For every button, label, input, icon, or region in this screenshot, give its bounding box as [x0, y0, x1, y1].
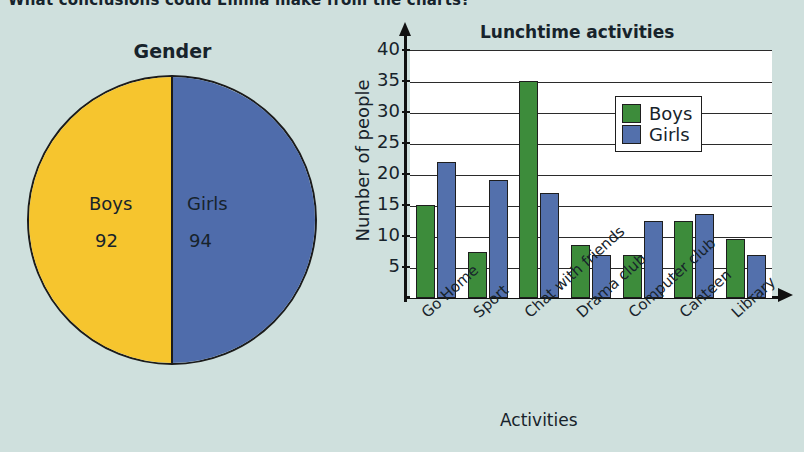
bar-boys-0 [416, 205, 435, 298]
y-axis-tick-label: 5 [366, 255, 400, 276]
gridline [410, 237, 772, 238]
pie-slice-girls [172, 77, 315, 363]
y-axis-tick [402, 49, 410, 51]
pie-divider [171, 77, 173, 363]
y-axis-tick-label: 25 [366, 131, 400, 152]
y-axis-tick [402, 204, 410, 206]
pie-chart-panel: Gender Boys 92 Girls 94 [0, 0, 345, 452]
gridline [410, 144, 772, 145]
pie-label-boys: Boys [89, 193, 132, 214]
bar-boys-2 [519, 81, 538, 298]
y-axis-tick-label: 10 [366, 224, 400, 245]
x-axis-arrow-icon [778, 288, 793, 302]
chart-legend: Boys Girls [615, 96, 702, 152]
bar-boys-6 [726, 239, 745, 298]
bar-girls-1 [489, 180, 508, 298]
y-axis-tick-label: 30 [366, 100, 400, 121]
gridline [410, 175, 772, 176]
y-axis-tick [402, 142, 410, 144]
y-axis-tick-label: 35 [366, 69, 400, 90]
gridline [410, 113, 772, 114]
y-axis-tick [402, 111, 410, 113]
bar-chart-title: Lunchtime activities [480, 22, 674, 42]
pie-circle [27, 75, 317, 365]
legend-label-girls: Girls [649, 126, 690, 144]
y-axis-tick [402, 80, 410, 82]
page-root: What conclusions could Emma make from th… [0, 0, 804, 452]
pie-value-boys: 92 [95, 230, 118, 251]
pie-label-girls: Girls [187, 193, 228, 214]
gridline [410, 82, 772, 83]
y-axis-line [404, 34, 407, 302]
x-axis-label: Activities [500, 410, 578, 430]
y-axis-tick-label: 15 [366, 193, 400, 214]
gridline [410, 206, 772, 207]
pie-value-girls: 94 [189, 230, 212, 251]
pie-slice-boys [29, 77, 172, 363]
legend-swatch-boys-icon [622, 104, 641, 123]
y-axis-tick [402, 235, 410, 237]
legend-item-boys: Boys [622, 104, 692, 123]
bar-chart-panel: Lunchtime activities Number of people Ac… [330, 0, 804, 452]
pie-chart-graphic: Boys 92 Girls 94 [27, 75, 317, 365]
y-axis-tick-label: 40 [366, 38, 400, 59]
y-axis-tick-label: 20 [366, 162, 400, 183]
legend-label-boys: Boys [649, 105, 692, 123]
legend-item-girls: Girls [622, 125, 692, 144]
y-axis-tick [402, 173, 410, 175]
pie-chart-title: Gender [0, 40, 345, 62]
y-axis-tick [402, 266, 410, 268]
legend-swatch-girls-icon [622, 125, 641, 144]
